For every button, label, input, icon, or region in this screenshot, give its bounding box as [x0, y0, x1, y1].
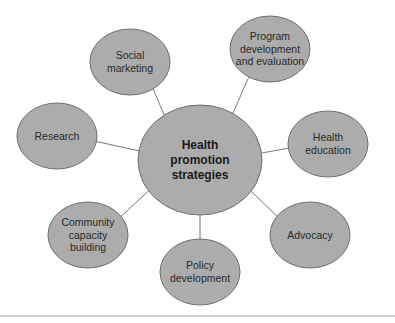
node-label-line: and evaluation — [236, 55, 304, 67]
node-label-line: Policy — [186, 259, 215, 271]
node-advocacy: Advocacy — [270, 202, 350, 268]
node-health-education: Healtheducation — [288, 111, 368, 177]
node-label-line: strategies — [172, 168, 229, 182]
node-label-line: Health — [182, 138, 219, 152]
node-label-line: Social — [116, 49, 145, 61]
edge-advocacy — [250, 190, 277, 216]
node-social-marketing: Socialmarketing — [90, 29, 170, 95]
node-label-line: education — [305, 144, 351, 156]
center-node-health-promotion-strategies: Healthpromotionstrategies — [138, 105, 262, 215]
node-label-line: Program — [250, 30, 291, 42]
node-label-line: capacity — [69, 229, 108, 241]
node-research: Research — [17, 103, 97, 169]
node-community-capacity-building: Communitycapacitybuilding — [48, 202, 128, 268]
node-program-development: Programdevelopmentand evaluation — [230, 16, 310, 82]
node-policy-development: Policydevelopment — [160, 239, 240, 305]
health-promotion-diagram: SocialmarketingProgramdevelopmentand eva… — [0, 0, 395, 323]
node-label-line: marketing — [107, 62, 153, 74]
edge-program-development — [232, 76, 249, 114]
node-label-line: Community — [61, 216, 115, 228]
edge-social-marketing — [153, 88, 165, 116]
node-label-line: promotion — [170, 153, 229, 167]
edge-health-education — [260, 148, 289, 153]
node-label-line: Advocacy — [287, 229, 333, 241]
node-label-line: building — [70, 241, 106, 253]
edge-community-capacity-building — [121, 190, 150, 217]
node-label-line: development — [240, 43, 300, 55]
edge-research — [96, 141, 140, 151]
node-label-line: Health — [313, 131, 344, 143]
node-label-line: development — [170, 272, 230, 284]
node-label-line: Research — [35, 130, 80, 142]
